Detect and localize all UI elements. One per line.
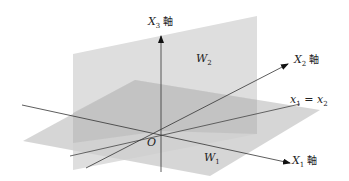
plane-w2-label: W2 [196, 53, 212, 67]
axis-x2-label: X2軸 [294, 54, 319, 68]
plane-w1-label: W1 [204, 152, 220, 166]
line-x1-eq-x2-label: x1 = x2 [290, 94, 328, 108]
axis-x1-label: X1軸 [292, 155, 317, 169]
axis-x3-label: X3軸 [148, 16, 173, 30]
origin-label: O [147, 137, 156, 148]
